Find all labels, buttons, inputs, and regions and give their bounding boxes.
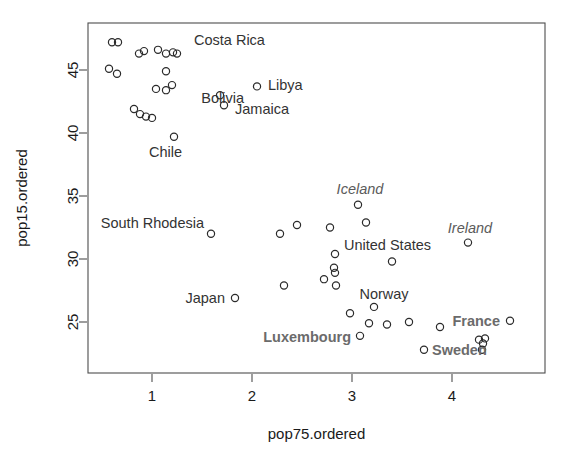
data-point xyxy=(383,321,390,328)
point-label-united-states: United States xyxy=(344,237,431,253)
point-labels: Costa RicaLibyaBoliviaJamaicaChileIcelan… xyxy=(101,32,500,358)
point-label-japan: Japan xyxy=(185,290,225,306)
data-point xyxy=(320,276,327,283)
x-tick-label-2: 2 xyxy=(248,387,256,404)
data-point xyxy=(326,224,333,231)
point-label-iceland: Iceland xyxy=(337,181,385,197)
data-point xyxy=(388,258,395,265)
data-point xyxy=(154,46,161,53)
data-point xyxy=(405,318,412,325)
y-tick-label-40: 40 xyxy=(64,125,81,142)
data-point xyxy=(332,282,339,289)
point-label-south-rhodesia: South Rhodesia xyxy=(101,215,205,231)
data-point xyxy=(280,282,287,289)
data-point xyxy=(436,323,443,330)
x-tick-label-4: 4 xyxy=(448,387,456,404)
y-tick-label-45: 45 xyxy=(64,62,81,79)
data-point xyxy=(253,83,260,90)
point-label-france: France xyxy=(452,313,500,329)
data-point xyxy=(170,133,177,140)
data-point xyxy=(152,85,159,92)
point-label-chile: Chile xyxy=(149,144,182,160)
data-point xyxy=(162,68,169,75)
data-point xyxy=(346,310,353,317)
data-point xyxy=(276,230,283,237)
data-point xyxy=(293,221,300,228)
x-tick-label-3: 3 xyxy=(348,387,356,404)
data-point xyxy=(362,219,369,226)
data-point xyxy=(356,332,363,339)
data-point xyxy=(231,294,238,301)
data-point xyxy=(105,65,112,72)
data-points xyxy=(105,39,513,354)
data-point xyxy=(113,70,120,77)
y-tick-label-30: 30 xyxy=(64,251,81,268)
y-tick-label-25: 25 xyxy=(64,314,81,331)
x-axis-title: pop75.ordered xyxy=(268,425,366,442)
scatter-plot-figure: 12342530354045 Costa RicaLibyaBoliviaJam… xyxy=(0,0,561,460)
point-label-libya: Libya xyxy=(268,77,304,93)
data-point xyxy=(506,317,513,324)
point-label-luxembourg: Luxembourg xyxy=(263,329,351,345)
point-label-ireland: Ireland xyxy=(448,220,493,236)
scatter-plot-svg: 12342530354045 Costa RicaLibyaBoliviaJam… xyxy=(0,0,561,460)
data-point xyxy=(420,346,427,353)
data-point xyxy=(464,239,471,246)
y-axis-title: pop15.ordered xyxy=(13,149,30,247)
x-tick-label-1: 1 xyxy=(148,387,156,404)
point-label-jamaica: Jamaica xyxy=(235,101,290,117)
data-point xyxy=(331,250,338,257)
point-label-sweden: Sweden xyxy=(432,342,487,358)
point-label-costa-rica: Costa Rica xyxy=(194,32,266,48)
data-point xyxy=(162,50,169,57)
data-point xyxy=(365,320,372,327)
data-point xyxy=(162,87,169,94)
data-point xyxy=(207,230,214,237)
data-point xyxy=(354,201,361,208)
data-point xyxy=(168,82,175,89)
data-point xyxy=(331,269,338,276)
point-label-norway: Norway xyxy=(359,286,409,302)
data-point xyxy=(370,303,377,310)
data-point xyxy=(130,105,137,112)
y-tick-label-35: 35 xyxy=(64,188,81,205)
data-point xyxy=(330,264,337,271)
